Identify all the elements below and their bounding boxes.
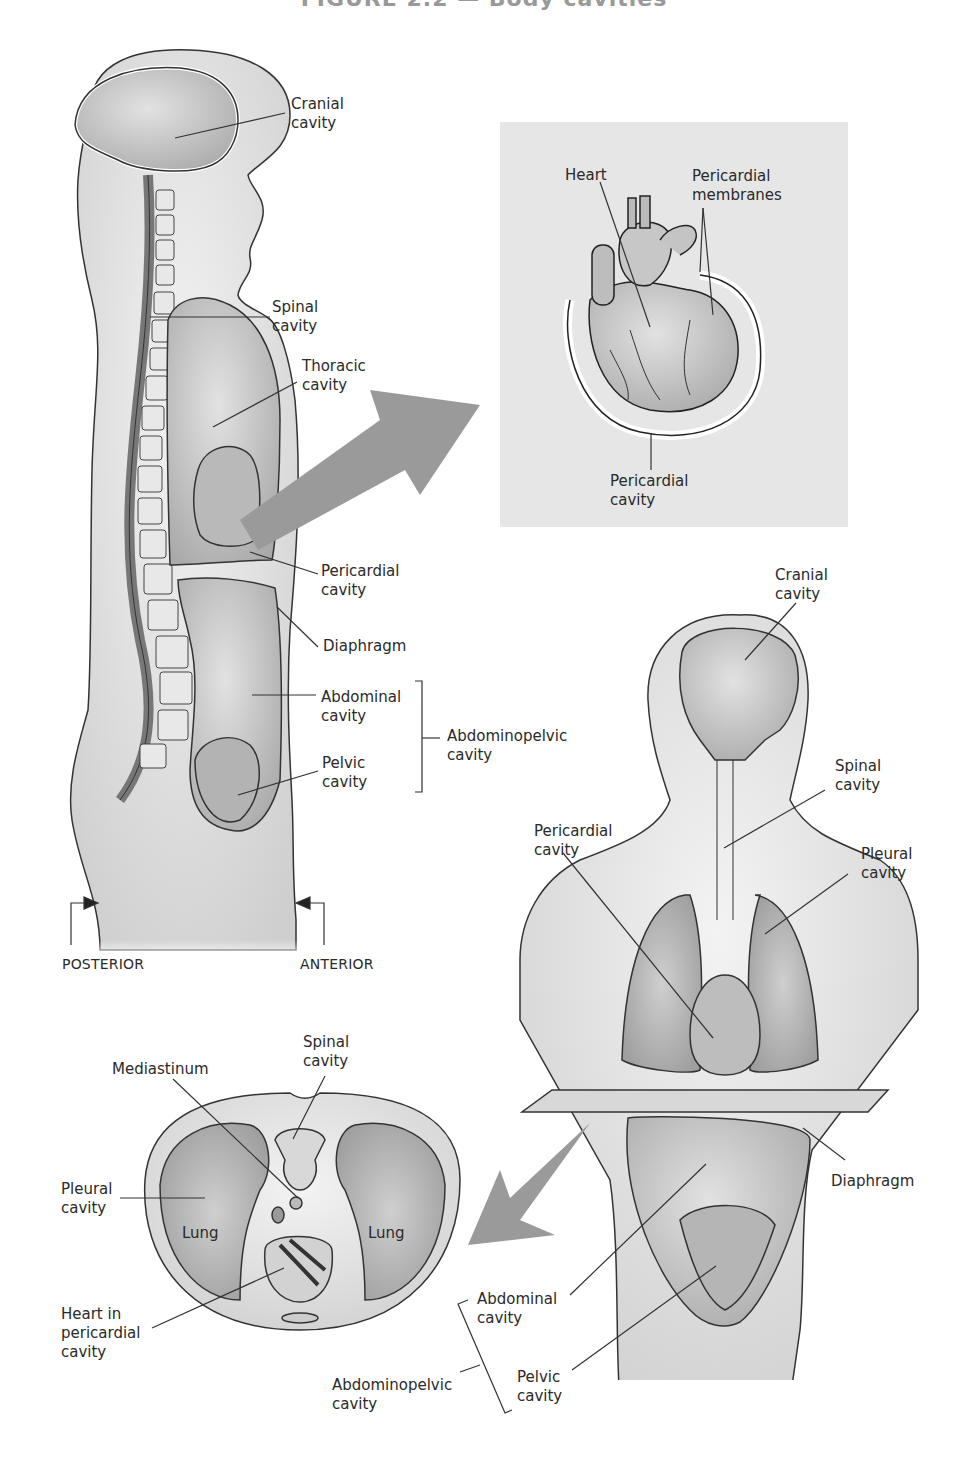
label-anterior-pelvic: Pelvic cavity — [517, 1368, 562, 1406]
label-inset-heart: Heart — [565, 166, 607, 185]
label-cs-pleural: Pleural cavity — [61, 1180, 112, 1218]
label-cs-lung-right: Lung — [368, 1224, 405, 1243]
label-cs-heart: Heart in pericardial cavity — [61, 1305, 140, 1362]
label-cs-lung-left: Lung — [182, 1224, 219, 1243]
label-cs-mediastinum: Mediastinum — [112, 1060, 209, 1079]
lateral-body — [71, 50, 299, 950]
label-anterior-abdominopelvic: Abdominopelvic cavity — [332, 1376, 452, 1414]
anterior-body — [520, 615, 918, 1400]
label-lateral-abdominopelvic: Abdominopelvic cavity — [447, 727, 567, 765]
label-anterior-pleural: Pleural cavity — [861, 845, 912, 883]
label-anterior: ANTERIOR — [300, 955, 374, 974]
label-inset-pericardial-cavity: Pericardial cavity — [610, 472, 688, 510]
label-anterior-abdominal: Abdominal cavity — [477, 1290, 557, 1328]
cross-section — [145, 1093, 460, 1330]
label-anterior-pericardial: Pericardial cavity — [534, 822, 612, 860]
label-lateral-pelvic: Pelvic cavity — [322, 754, 367, 792]
arrow-to-cross-section — [468, 1123, 590, 1245]
label-cs-spinal: Spinal cavity — [303, 1033, 349, 1071]
label-anterior-diaphragm: Diaphragm — [831, 1172, 914, 1191]
label-lateral-abdominal: Abdominal cavity — [321, 688, 401, 726]
label-lateral-diaphragm: Diaphragm — [323, 637, 406, 656]
label-posterior: POSTERIOR — [62, 955, 144, 974]
label-anterior-cranial: Cranial cavity — [775, 566, 828, 604]
label-lateral-cranial: Cranial cavity — [291, 95, 344, 133]
label-lateral-thoracic: Thoracic cavity — [302, 357, 366, 395]
label-lateral-pericardial: Pericardial cavity — [321, 562, 399, 600]
label-inset-membranes: Pericardial membranes — [692, 167, 782, 205]
label-lateral-spinal: Spinal cavity — [272, 298, 318, 336]
label-anterior-spinal: Spinal cavity — [835, 757, 881, 795]
